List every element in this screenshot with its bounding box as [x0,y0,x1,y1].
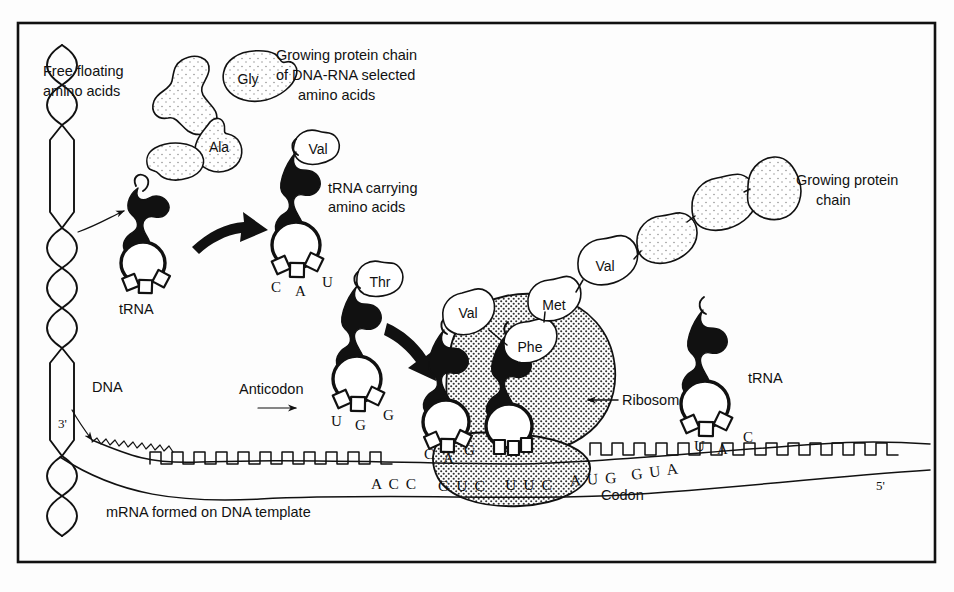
protein-synthesis-figure: DNA 3' Gly Ala Free floating amino acids… [0,0,954,592]
amino-acid-blob-chain-7 [748,157,801,220]
diagram-canvas: DNA 3' Gly Ala Free floating amino acids… [0,0,954,592]
trna-free-left: tRNA [119,175,170,317]
free-amino-acid-group: Gly Ala Free floating amino acids [43,51,297,180]
dna-double-helix: DNA 3' [47,45,124,536]
caption-line-1: Growing protein chain [276,47,417,63]
amino-acid-label-chain-phe: Phe [518,339,543,355]
growing-protein-chain-group: Val Phe Met Val Growing protein chain [443,157,899,363]
growing-chain-right-label-line1: Growing protein [796,172,898,188]
ribosome-label: Ribosome [622,392,687,408]
codon-2: G U C [438,477,486,494]
amino-acid-label-thr: Thr [370,274,391,290]
anticodon-label: Anticodon [239,381,304,397]
trna-right-label: tRNA [748,370,783,386]
amino-acid-label-val-carried: Val [308,141,327,157]
trna-carrying-label-line1: tRNA carrying [328,180,417,196]
amino-acid-blob-1 [153,56,217,134]
transition-arrow-1 [192,212,268,254]
free-floating-label-line1: Free floating [43,63,124,79]
codon-3: U U C [505,476,553,493]
dna-to-trna-arrow [78,211,124,232]
transition-arrow-2 [384,323,436,381]
mrna-template-label: mRNA formed on DNA template [106,504,311,520]
caption-line-2: of DNA-RNA selected [276,67,415,83]
dna-label: DNA [92,379,123,395]
three-prime-arrow [72,410,92,440]
codon-label: Codon [601,487,644,503]
trna-carrying-label-line2: amino acids [328,199,405,215]
amino-acid-label-gly: Gly [238,71,259,87]
anticodon-base-g-2b: G [383,407,394,423]
trna-right-free: U A C tRNA [681,297,783,457]
growing-chain-selected-caption: Growing protein chain of DNA-RNA selecte… [276,47,417,103]
anticodon-base-g-3: G [464,442,475,458]
anticodon-base-u-1: U [322,274,333,290]
trna-thr-anticodon: Thr U G G Anticodon [239,261,403,433]
five-prime-label: 5' [876,478,885,493]
amino-acid-blob-4 [147,143,204,180]
growing-chain-right-label-line2: chain [816,192,851,208]
anticodon-base-g-2a: G [355,417,366,433]
anticodon-base-c-1: C [271,279,281,295]
amino-acid-label-ala: Ala [209,139,229,155]
free-floating-label-line2: amino acids [43,83,120,99]
amino-acid-blob-chain-6 [692,174,757,230]
three-prime-label: 3' [58,416,67,431]
amino-acid-label-chain-val1: Val [458,305,477,321]
amino-acid-label-chain-met: Met [542,297,565,313]
codon-1: A C C [371,475,418,492]
codon-5: G U A [630,459,680,483]
anticodon-base-u-2: U [331,413,342,429]
trna-left-label: tRNA [119,301,154,317]
anticodon-base-c-3: C [424,446,434,462]
codon-4: A U G [569,469,619,489]
anticodon-base-a-1: A [295,283,306,299]
caption-line-3: amino acids [298,87,375,103]
amino-acid-label-chain-val2: Val [595,258,614,274]
